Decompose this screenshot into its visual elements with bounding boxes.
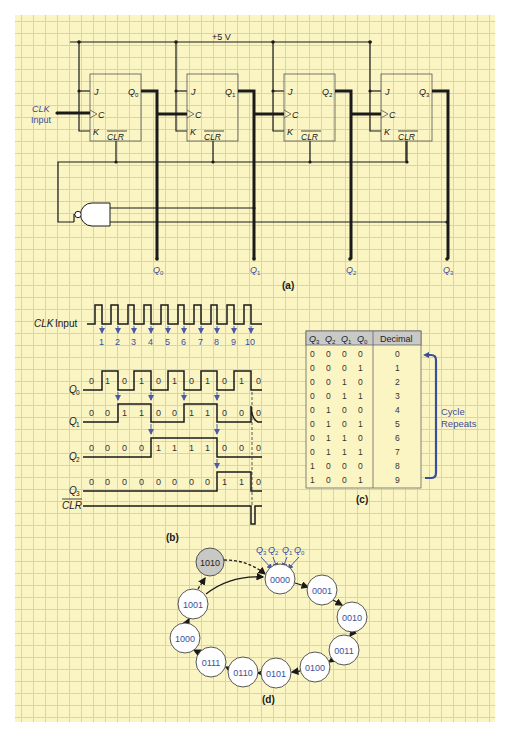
svg-text:Input: Input xyxy=(55,318,77,329)
svg-text:0: 0 xyxy=(342,405,347,415)
svg-text:Q: Q xyxy=(250,265,257,275)
svg-text:0: 0 xyxy=(342,363,347,373)
svg-text:Q: Q xyxy=(443,265,450,275)
flip-flop-3: J C K CLR Q 3 xyxy=(368,40,448,259)
svg-text:0: 0 xyxy=(256,376,261,386)
state-0010: 0010 xyxy=(337,602,367,632)
svg-text:0: 0 xyxy=(89,408,94,418)
svg-text:2: 2 xyxy=(395,377,400,387)
clr-signal-label: CLR xyxy=(62,500,82,511)
svg-text:0: 0 xyxy=(342,475,347,485)
svg-text:CLR: CLR xyxy=(107,132,124,142)
svg-text:Q: Q xyxy=(309,334,316,344)
svg-text:0: 0 xyxy=(239,408,244,418)
svg-text:0: 0 xyxy=(358,405,363,415)
svg-text:0: 0 xyxy=(89,376,94,386)
svg-text:5: 5 xyxy=(165,337,170,347)
nand-gate xyxy=(74,203,449,226)
q3-bits: 0 0 0 0 0 0 0 0 1 1 0 xyxy=(89,477,261,487)
decade-counter-figure: +5 V J C K CLR Q 0 J xyxy=(0,0,511,737)
svg-text:2: 2 xyxy=(275,550,279,556)
svg-text:Q: Q xyxy=(357,334,364,344)
svg-text:0: 0 xyxy=(310,447,315,457)
svg-text:0: 0 xyxy=(358,377,363,387)
svg-text:0: 0 xyxy=(189,376,194,386)
svg-text:0100: 0100 xyxy=(305,663,325,673)
svg-text:0: 0 xyxy=(256,443,261,453)
svg-text:1: 1 xyxy=(326,419,331,429)
caption-d: (d) xyxy=(262,694,275,705)
clk-pulse-numbers: 1 2 3 4 5 6 7 8 9 10 xyxy=(99,337,255,347)
svg-text:0: 0 xyxy=(222,376,227,386)
svg-text:0: 0 xyxy=(326,475,331,485)
svg-text:0010: 0010 xyxy=(342,613,362,623)
svg-text:K: K xyxy=(287,127,294,137)
svg-text:0: 0 xyxy=(172,477,177,487)
svg-text:0: 0 xyxy=(326,363,331,373)
clk-input-label: Input xyxy=(31,115,52,125)
svg-text:2: 2 xyxy=(329,92,333,98)
svg-text:0: 0 xyxy=(122,443,127,453)
svg-text:0000: 0000 xyxy=(270,575,290,585)
svg-text:0: 0 xyxy=(122,376,127,386)
svg-text:0: 0 xyxy=(105,477,110,487)
svg-text:0: 0 xyxy=(358,433,363,443)
svg-text:C: C xyxy=(195,110,202,120)
svg-text:0: 0 xyxy=(256,477,261,487)
svg-text:0: 0 xyxy=(326,461,331,471)
svg-text:1: 1 xyxy=(122,408,127,418)
svg-text:Decimal: Decimal xyxy=(380,334,413,344)
svg-text:0: 0 xyxy=(310,391,315,401)
svg-text:Q: Q xyxy=(282,545,289,555)
svg-text:3: 3 xyxy=(263,550,267,556)
svg-text:0: 0 xyxy=(222,408,227,418)
timing-diagram: CLK Input 1 2 3 4 5 6 7 8 9 10 xyxy=(34,305,262,543)
flip-flop-1: J C K CLR Q 1 xyxy=(174,40,254,259)
svg-text:3: 3 xyxy=(131,337,136,347)
svg-text:CLR: CLR xyxy=(204,132,221,142)
state-0001: 0001 xyxy=(307,575,337,605)
svg-text:0: 0 xyxy=(342,419,347,429)
svg-text:8: 8 xyxy=(214,337,219,347)
svg-text:2: 2 xyxy=(76,456,80,463)
svg-text:1: 1 xyxy=(358,419,363,429)
svg-text:Q: Q xyxy=(322,87,329,97)
svg-text:0: 0 xyxy=(358,461,363,471)
repeats-label: Repeats xyxy=(441,418,477,429)
svg-text:4: 4 xyxy=(148,337,153,347)
table-header-cells: Q 3 Q 2 Q 1 Q 0 Decimal xyxy=(309,334,413,345)
state-0000: 0000 xyxy=(265,564,295,594)
svg-text:1: 1 xyxy=(326,447,331,457)
svg-text:0: 0 xyxy=(89,477,94,487)
svg-text:7: 7 xyxy=(198,337,203,347)
svg-text:1: 1 xyxy=(156,443,161,453)
svg-text:6: 6 xyxy=(181,337,186,347)
circuit-diagram: +5 V J C K CLR Q 0 J xyxy=(31,32,454,291)
state-1001: 1001 xyxy=(178,589,208,619)
svg-text:9: 9 xyxy=(395,475,400,485)
svg-text:C: C xyxy=(292,110,299,120)
svg-text:Q: Q xyxy=(325,334,332,344)
svg-text:0: 0 xyxy=(301,550,305,556)
svg-text:0: 0 xyxy=(135,92,139,98)
svg-text:1: 1 xyxy=(239,477,244,487)
state-0101: 0101 xyxy=(261,658,291,688)
svg-text:Q: Q xyxy=(225,87,232,97)
state-1010: 1010 xyxy=(196,548,224,576)
svg-text:0: 0 xyxy=(239,443,244,453)
svg-text:3: 3 xyxy=(426,92,430,98)
state-diagram: Q 3 Q 2 Q 1 Q 0 xyxy=(170,545,367,705)
svg-text:1: 1 xyxy=(139,408,144,418)
svg-text:0001: 0001 xyxy=(312,586,332,596)
svg-text:0: 0 xyxy=(310,377,315,387)
svg-text:1: 1 xyxy=(257,270,261,276)
state-bit-labels: Q 3 Q 2 Q 1 Q 0 xyxy=(256,545,305,556)
svg-text:J: J xyxy=(384,87,390,97)
clk-waveform xyxy=(87,305,262,324)
svg-text:1: 1 xyxy=(205,408,210,418)
svg-text:1: 1 xyxy=(172,376,177,386)
q2-bits: 0 0 0 0 1 1 1 1 0 0 0 xyxy=(89,443,261,453)
svg-text:1: 1 xyxy=(358,363,363,373)
svg-text:1: 1 xyxy=(139,376,144,386)
svg-text:7: 7 xyxy=(395,447,400,457)
